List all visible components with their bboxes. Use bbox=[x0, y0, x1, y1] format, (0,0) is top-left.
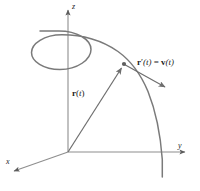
velocity-vector-label: r′(t) = v(t) bbox=[137, 58, 174, 67]
vector-function-diagram: z y x r(t) r′(t) = v(t) bbox=[0, 0, 200, 191]
x-axis bbox=[14, 152, 68, 171]
velocity-equals-sign: = bbox=[151, 57, 161, 67]
axes-group bbox=[14, 10, 185, 171]
position-vector-paren-close: ) bbox=[82, 88, 85, 98]
position-vector-label: r(t) bbox=[72, 89, 85, 98]
position-vector-arrow bbox=[68, 68, 122, 152]
point-on-curve bbox=[122, 62, 126, 66]
velocity-v-argument: (t) bbox=[166, 57, 175, 67]
x-axis-label: x bbox=[6, 158, 10, 166]
space-curve bbox=[32, 31, 163, 177]
z-axis-label: z bbox=[72, 3, 75, 11]
y-axis-label: y bbox=[178, 142, 182, 150]
space-curve-group bbox=[32, 31, 163, 177]
diagram-canvas bbox=[0, 0, 200, 191]
position-vector-group bbox=[68, 68, 122, 152]
